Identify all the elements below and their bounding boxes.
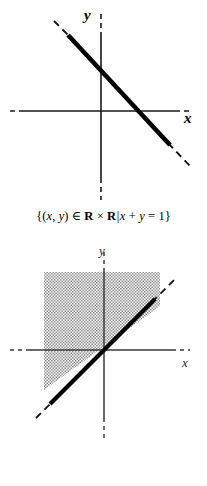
- caption-equals-sign: =: [145, 209, 159, 223]
- caption-plus-sign: +: [126, 209, 140, 223]
- y-axis-label-top: y: [84, 7, 91, 24]
- y-axis-label-bottom: y: [99, 243, 105, 259]
- plot-area-bottom: y x: [0, 240, 207, 450]
- graph-line-dashed-upper: [54, 21, 70, 37]
- x-axis-label-bottom: x: [182, 355, 188, 371]
- coordinate-plane-bottom: [0, 240, 207, 450]
- caption-element-of-symbol: ∈: [72, 209, 85, 223]
- shaded-region-x-ge-y: [44, 272, 160, 390]
- x-axis-label-top: x: [184, 110, 192, 127]
- graph-line-dashed-lower: [168, 143, 191, 167]
- coordinate-plane-top: [0, 0, 207, 205]
- caption-reals-second: R: [107, 209, 116, 223]
- plot-area-top: y x: [0, 0, 207, 205]
- caption-close-paren: ): [64, 209, 72, 223]
- caption-reals-first: R: [84, 209, 93, 223]
- caption-close-brace: }: [165, 209, 171, 223]
- figure-line-x-plus-y-equals-1: y x {(x, y) ∈ R × R|x + y = 1}: [0, 0, 207, 243]
- caption-top: {(x, y) ∈ R × R|x + y = 1}: [0, 208, 207, 224]
- graph-line-solid: [68, 35, 170, 145]
- figure-region-x-greater-equal-y: y x {(x, y) ∈ R × R|x ⩾ y}: [0, 240, 207, 486]
- caption-open-brace: {(: [36, 209, 46, 223]
- caption-cartesian-times: ×: [94, 209, 108, 223]
